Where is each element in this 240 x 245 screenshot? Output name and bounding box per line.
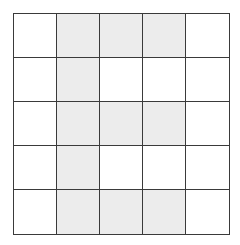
grid-cell-shaded	[143, 14, 186, 58]
grid-cell-empty	[14, 146, 57, 190]
grid-cell-empty	[14, 190, 57, 234]
grid-cell-shaded	[57, 146, 100, 190]
grid-cell-shaded	[57, 102, 100, 146]
grid-cell-empty	[186, 190, 229, 234]
grid-cell-empty	[186, 146, 229, 190]
grid-cell-shaded	[57, 58, 100, 102]
grid-cell-empty	[100, 58, 143, 102]
grid-cell-shaded	[100, 190, 143, 234]
grid-cell-empty	[100, 146, 143, 190]
grid-cell-empty	[186, 58, 229, 102]
grid-cell-shaded	[57, 190, 100, 234]
grid-cell-shaded	[57, 14, 100, 58]
grid-cell-empty	[14, 58, 57, 102]
pattern-grid	[13, 13, 230, 235]
grid-cell-shaded	[143, 190, 186, 234]
grid-cell-shaded	[100, 14, 143, 58]
grid-cell-empty	[186, 14, 229, 58]
grid-cell-empty	[143, 58, 186, 102]
grid-cell-shaded	[100, 102, 143, 146]
grid-cell-empty	[186, 102, 229, 146]
grid-cell-empty	[143, 146, 186, 190]
grid-cell-empty	[14, 102, 57, 146]
grid-cell-shaded	[143, 102, 186, 146]
grid-cell-empty	[14, 14, 57, 58]
